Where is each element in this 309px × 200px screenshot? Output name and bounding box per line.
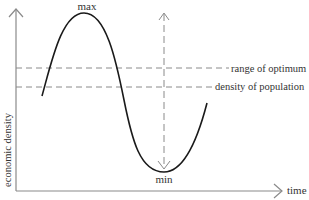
range-of-optimum-label: range of optimum [231, 63, 306, 74]
diagram-canvas: max min range of optimum density of popu… [0, 0, 309, 200]
x-axis [16, 184, 282, 198]
x-axis-label: time [287, 184, 307, 196]
y-axis-label: economic density [2, 112, 13, 187]
density-curve [42, 13, 207, 172]
density-of-population-label: density of population [215, 81, 305, 92]
max-label: max [78, 0, 97, 12]
min-label: min [155, 173, 173, 185]
amplitude-arrow [158, 13, 170, 169]
